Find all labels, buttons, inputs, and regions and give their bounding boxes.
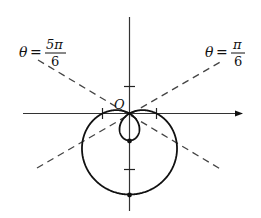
fraction-denominator: 6 — [51, 54, 59, 69]
equals-sign: = — [30, 44, 42, 60]
polar-diagram: O θ = 5π 6 θ = π 6 — [0, 0, 261, 218]
origin-label: O — [114, 97, 125, 112]
theta-symbol: θ — [205, 44, 214, 60]
outer-loop-point — [127, 193, 132, 198]
fraction-denominator: 6 — [234, 54, 242, 69]
fraction-numerator: 5π — [46, 37, 63, 52]
label-theta-pi-over-6: θ = π 6 — [205, 37, 245, 69]
equals-sign: = — [216, 44, 228, 60]
label-theta-5pi-over-6: θ = 5π 6 — [19, 37, 66, 69]
fraction-numerator: π — [232, 37, 242, 52]
inner-loop-point — [127, 139, 132, 144]
theta-symbol: θ — [19, 44, 28, 60]
